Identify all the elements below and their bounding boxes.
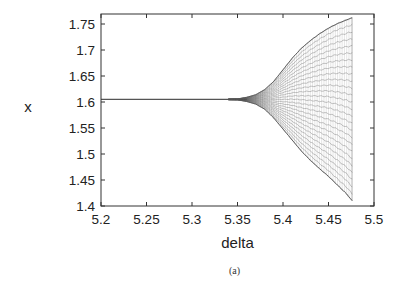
y-tick-label: 1.7 (76, 43, 95, 58)
plot-area: 5.25.255.35.355.45.455.5 1.41.451.51.551… (69, 14, 384, 227)
y-axis-label: x (24, 98, 32, 115)
y-tick-label: 1.4 (76, 199, 95, 214)
x-tick-label: 5.4 (274, 212, 293, 227)
y-axis-ticks: 1.41.451.51.551.61.651.71.75 (69, 17, 374, 214)
data-layer (101, 17, 352, 200)
y-tick-label: 1.6 (76, 95, 95, 110)
x-axis-ticks: 5.25.255.35.355.45.455.5 (92, 14, 384, 227)
x-tick-label: 5.25 (133, 212, 159, 227)
y-tick-label: 1.55 (69, 121, 95, 136)
y-tick-label: 1.45 (69, 173, 95, 188)
x-tick-label: 5.35 (224, 212, 250, 227)
x-axis-label: delta (221, 234, 254, 251)
y-tick-label: 1.75 (69, 17, 95, 32)
lower-envelope (228, 100, 352, 201)
figure-caption: (a) (229, 265, 240, 277)
x-tick-label: 5.5 (365, 212, 384, 227)
x-tick-label: 5.45 (315, 212, 341, 227)
bifurcation-figure: 5.25.255.35.355.45.455.5 1.41.451.51.551… (0, 0, 411, 286)
y-tick-label: 1.65 (69, 69, 95, 84)
x-tick-label: 5.3 (183, 212, 202, 227)
y-tick-label: 1.5 (76, 147, 95, 162)
x-tick-label: 5.2 (92, 212, 111, 227)
